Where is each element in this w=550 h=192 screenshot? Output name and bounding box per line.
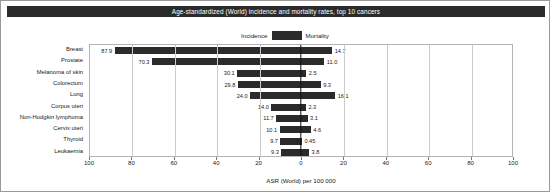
incidence-cell: 10.1 bbox=[90, 124, 301, 135]
mortality-bar bbox=[301, 126, 311, 133]
category-label: Prostate bbox=[61, 55, 83, 66]
incidence-value-label: 10.1 bbox=[266, 127, 277, 133]
chart-figure: Age-standardized (World) incidence and m… bbox=[0, 0, 550, 192]
mortality-bar bbox=[301, 104, 306, 111]
mortality-bar bbox=[301, 58, 324, 65]
incidence-bar bbox=[115, 47, 301, 54]
incidence-value-label: 24.0 bbox=[237, 93, 248, 99]
x-tick-label: 40 bbox=[382, 160, 389, 166]
mortality-value-label: 3.8 bbox=[312, 149, 320, 155]
gridline bbox=[472, 45, 473, 156]
x-tick-label: 40 bbox=[213, 160, 220, 166]
incidence-bar bbox=[281, 149, 301, 156]
gridline bbox=[132, 45, 133, 156]
x-tick-label: 0 bbox=[299, 160, 302, 166]
incidence-value-label: 11.7 bbox=[263, 115, 273, 121]
category-label: Non-Hodgkin lymphoma bbox=[20, 112, 83, 123]
incidence-bar bbox=[271, 104, 301, 111]
incidence-bar bbox=[237, 70, 301, 77]
y-axis-category-labels: BreastProstateMelanoma of skinColorectum… bbox=[1, 44, 86, 157]
mortality-value-label: 2.3 bbox=[308, 104, 316, 110]
incidence-value-label: 9.3 bbox=[271, 149, 279, 155]
mortality-cell: 4.6 bbox=[301, 124, 512, 135]
incidence-value-label: 30.1 bbox=[224, 70, 235, 76]
chart-title: Age-standardized (World) incidence and m… bbox=[7, 6, 545, 17]
center-axis-line bbox=[300, 45, 301, 156]
x-tick-label: 80 bbox=[128, 160, 135, 166]
mortality-value-label: 4.6 bbox=[313, 127, 321, 133]
mortality-value-label: 16.1 bbox=[338, 93, 349, 99]
incidence-cell: 87.9 bbox=[90, 45, 301, 56]
incidence-bar bbox=[280, 126, 301, 133]
mortality-cell: 3.1 bbox=[301, 113, 512, 124]
gridline bbox=[429, 45, 430, 156]
category-label: Thyroid bbox=[63, 134, 83, 145]
mortality-bar bbox=[301, 149, 309, 156]
incidence-value-label: 9.7 bbox=[270, 138, 278, 144]
incidence-cell: 29.8 bbox=[90, 79, 301, 90]
gridline bbox=[387, 45, 388, 156]
incidence-cell: 24.0 bbox=[90, 90, 301, 101]
incidence-cell: 11.7 bbox=[90, 113, 301, 124]
gridline bbox=[175, 45, 176, 156]
incidence-cell: 70.3 bbox=[90, 56, 301, 67]
mortality-bar bbox=[301, 70, 306, 77]
chart-legend: Incidence Mortality bbox=[241, 29, 329, 41]
legend-item-incidence: Incidence bbox=[241, 32, 268, 39]
legend-swatch-icon bbox=[272, 31, 302, 40]
mortality-bar bbox=[301, 92, 335, 99]
x-tick-label: 100 bbox=[84, 160, 94, 166]
mortality-value-label: 9.3 bbox=[323, 82, 331, 88]
incidence-bar bbox=[250, 92, 301, 99]
x-tick-label: 60 bbox=[425, 160, 432, 166]
x-axis-title: ASR (World) per 100 000 bbox=[89, 177, 513, 184]
x-tick-label: 20 bbox=[255, 160, 262, 166]
incidence-bar bbox=[238, 81, 301, 88]
category-label: Corpus uteri bbox=[51, 101, 83, 112]
mortality-cell: 16.1 bbox=[301, 90, 512, 101]
legend-item-mortality: Mortality bbox=[306, 32, 329, 39]
mortality-value-label: 11.0 bbox=[327, 59, 337, 65]
category-label: Lung bbox=[70, 89, 83, 100]
mortality-cell: 2.5 bbox=[301, 68, 512, 79]
category-label: Breast bbox=[66, 44, 83, 55]
mortality-bar bbox=[301, 47, 332, 54]
mortality-bar bbox=[301, 115, 308, 122]
incidence-value-label: 29.8 bbox=[224, 82, 235, 88]
x-tick-label: 20 bbox=[340, 160, 347, 166]
incidence-cell: 14.0 bbox=[90, 102, 301, 113]
mortality-bar bbox=[301, 81, 321, 88]
mortality-cell: 11.0 bbox=[301, 56, 512, 67]
x-tick-label: 60 bbox=[170, 160, 177, 166]
mortality-cell: 0.45 bbox=[301, 135, 512, 146]
mortality-value-label: 2.5 bbox=[309, 70, 317, 76]
incidence-value-label: 70.3 bbox=[139, 59, 150, 65]
incidence-cell: 9.7 bbox=[90, 135, 301, 146]
mortality-cell: 14.7 bbox=[301, 45, 512, 56]
incidence-bar bbox=[276, 115, 301, 122]
category-label: Cervix uteri bbox=[53, 123, 83, 134]
mortality-value-label: 3.1 bbox=[310, 115, 318, 121]
category-label: Melanoma of skin bbox=[37, 67, 83, 78]
gridline bbox=[217, 45, 218, 156]
gridline bbox=[344, 45, 345, 156]
x-axis-ticks: 10080604020020406080100 bbox=[89, 157, 513, 167]
incidence-cell: 30.1 bbox=[90, 68, 301, 79]
gridline bbox=[260, 45, 261, 156]
incidence-value-label: 87.9 bbox=[101, 48, 112, 54]
x-tick-label: 80 bbox=[467, 160, 474, 166]
mortality-value-label: 0.45 bbox=[304, 138, 315, 144]
x-tick-label: 100 bbox=[508, 160, 518, 166]
category-label: Colorectum bbox=[53, 78, 83, 89]
category-label: Leukaemia bbox=[54, 146, 83, 157]
incidence-bar bbox=[280, 138, 301, 145]
mortality-cell: 9.3 bbox=[301, 79, 512, 90]
plot-area: 87.914.770.311.030.12.529.89.324.016.114… bbox=[89, 44, 513, 157]
mortality-cell: 2.3 bbox=[301, 102, 512, 113]
